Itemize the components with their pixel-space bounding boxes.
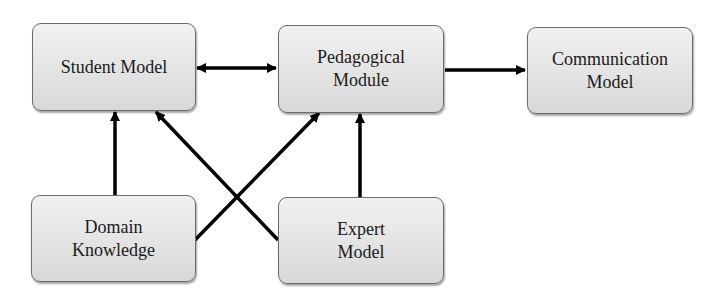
node-label-line-1: Domain xyxy=(72,216,155,239)
node-label-line-2: Model xyxy=(552,71,668,94)
node-communication-model: Communication Model xyxy=(527,27,693,114)
node-label-line-2: Model xyxy=(337,241,385,264)
node-student-model: Student Model xyxy=(32,23,196,111)
node-expert-model: Expert Model xyxy=(278,197,444,284)
node-label-line-2: Module xyxy=(317,69,405,92)
node-label-line-2: Knowledge xyxy=(72,239,155,262)
node-label-line-1: Communication xyxy=(552,48,668,71)
node-label-line-1: Expert xyxy=(337,218,385,241)
node-domain-knowledge: Domain Knowledge xyxy=(31,195,196,282)
node-label-line-1: Pedagogical xyxy=(317,46,405,69)
node-pedagogical-module: Pedagogical Module xyxy=(278,25,444,113)
node-label: Student Model xyxy=(61,56,168,79)
